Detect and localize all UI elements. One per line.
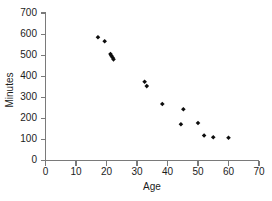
data-point bbox=[196, 121, 201, 126]
y-axis-group: 0100200300400500600700 bbox=[20, 7, 45, 166]
y-tick-label-1: 100 bbox=[20, 133, 37, 144]
x-axis-ticks: 010203040506070 bbox=[43, 161, 265, 178]
data-point bbox=[160, 102, 165, 107]
y-tick-label-2: 200 bbox=[20, 112, 37, 123]
y-tick-label-6: 600 bbox=[20, 28, 37, 39]
scatter-chart: 0100200300400500600700 010203040506070 A… bbox=[0, 0, 272, 201]
y-axis-ticks: 0100200300400500600700 bbox=[20, 7, 45, 166]
x-axis-group: 010203040506070 bbox=[43, 161, 265, 178]
y-tick-label-4: 400 bbox=[20, 70, 37, 81]
data-point bbox=[102, 39, 107, 44]
data-point bbox=[202, 133, 207, 138]
data-point bbox=[144, 84, 149, 89]
x-axis-title: Age bbox=[143, 181, 161, 192]
y-tick-label-0: 0 bbox=[31, 154, 37, 165]
plot-area: 0100200300400500600700 010203040506070 A… bbox=[0, 0, 272, 201]
y-tick-label-3: 300 bbox=[20, 91, 37, 102]
data-point-group bbox=[96, 35, 231, 140]
data-point bbox=[181, 107, 186, 112]
x-tick-label-5: 50 bbox=[192, 166, 204, 177]
x-tick-label-4: 40 bbox=[162, 166, 174, 177]
x-tick-label-3: 30 bbox=[131, 166, 143, 177]
x-tick-label-2: 20 bbox=[101, 166, 113, 177]
data-point bbox=[226, 135, 231, 140]
x-tick-label-7: 70 bbox=[253, 166, 265, 177]
chart-svg: 0100200300400500600700 010203040506070 A… bbox=[0, 0, 272, 201]
x-tick-label-1: 10 bbox=[70, 166, 82, 177]
data-point bbox=[142, 79, 147, 84]
x-tick-label-0: 0 bbox=[43, 166, 49, 177]
data-point bbox=[96, 35, 101, 40]
y-tick-label-7: 700 bbox=[20, 7, 37, 18]
y-tick-label-5: 500 bbox=[20, 49, 37, 60]
x-tick-label-6: 60 bbox=[223, 166, 235, 177]
y-axis-title: Minutes bbox=[4, 72, 15, 107]
data-point bbox=[179, 122, 184, 127]
data-point bbox=[211, 135, 216, 140]
